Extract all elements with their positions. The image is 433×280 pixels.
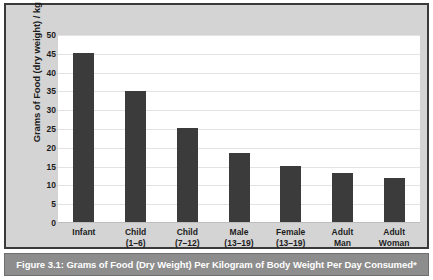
y-tick-label: 15 [10, 162, 56, 172]
bar [332, 173, 353, 223]
y-tick-label: 5 [10, 199, 56, 209]
plot-area [58, 35, 420, 223]
gridline [58, 148, 420, 149]
bar [177, 128, 198, 223]
y-tick-label: 45 [10, 49, 56, 59]
y-tick-label: 30 [10, 105, 56, 115]
bar [229, 153, 250, 223]
y-tick-label: 50 [10, 30, 56, 40]
y-tick-label: 20 [10, 143, 56, 153]
y-tick-label: 0 [10, 218, 56, 228]
gridline [58, 73, 420, 74]
gridline [58, 54, 420, 55]
figure-container: Grams of Food (dry weight) / kg / day 05… [0, 0, 433, 280]
y-tick-label: 40 [10, 68, 56, 78]
y-axis-tick-labels: 05101520253035404550 [6, 35, 56, 223]
x-tick-label-line: Woman [363, 238, 425, 249]
gridline [58, 91, 420, 92]
x-tick-label: AdultWoman [363, 227, 425, 248]
bar [125, 91, 146, 223]
bar [384, 178, 405, 223]
figure-caption-bar: Figure 3.1: Grams of Food (Dry Weight) P… [4, 253, 429, 276]
gridline [58, 129, 420, 130]
y-tick-label: 10 [10, 180, 56, 190]
y-tick-label: 35 [10, 86, 56, 96]
x-axis-tick-labels: InfantChild(1–6)Child(7–12)Male(13–19)Fe… [58, 227, 420, 251]
gridline [58, 110, 420, 111]
chart-panel: Grams of Food (dry weight) / kg / day 05… [4, 3, 429, 249]
figure-caption: Figure 3.1: Grams of Food (Dry Weight) P… [16, 259, 416, 270]
y-tick-label: 25 [10, 124, 56, 134]
bar [73, 53, 94, 223]
x-tick-label-line: Adult [363, 227, 425, 238]
bar [280, 166, 301, 223]
gridline [58, 35, 420, 36]
chart-panel-inner: Grams of Food (dry weight) / kg / day 05… [6, 5, 427, 247]
x-axis-baseline [58, 222, 420, 223]
